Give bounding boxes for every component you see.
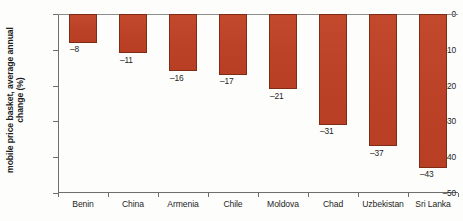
x-axis-category-label: Armenia: [167, 199, 198, 209]
bar-value-label: –31: [320, 126, 333, 136]
zero-baseline: [58, 14, 458, 15]
bar-value-label: –11: [120, 55, 133, 65]
x-axis-category-label: Chile: [223, 199, 242, 209]
bar-chart: mobile price basket, average annual chan…: [0, 0, 463, 221]
bar: [219, 14, 247, 75]
x-axis-tick: [58, 193, 59, 197]
bar: [169, 14, 197, 71]
bar: [369, 14, 397, 146]
x-axis-tick: [408, 193, 409, 197]
bar-value-label: –16: [170, 73, 183, 83]
bar: [69, 14, 97, 43]
x-axis-category-label: Chad: [323, 199, 343, 209]
plot-area: [58, 14, 458, 193]
bar-value-label: –37: [370, 148, 383, 158]
x-axis-category-label: Sri Lanka: [415, 199, 450, 209]
x-axis-tick: [358, 193, 359, 197]
bar: [419, 14, 447, 168]
x-axis-tick: [458, 193, 459, 197]
x-axis-tick: [208, 193, 209, 197]
bar: [269, 14, 297, 89]
x-axis-category-label: Benin: [72, 199, 93, 209]
x-axis-category-label: Uzbekistan: [362, 199, 404, 209]
x-axis-tick: [258, 193, 259, 197]
bar-value-label: –21: [270, 91, 283, 101]
y-axis-title: mobile price basket, average annual chan…: [0, 0, 30, 200]
bar: [119, 14, 147, 53]
x-axis-tick: [158, 193, 159, 197]
x-axis-tick: [108, 193, 109, 197]
x-axis-tick: [308, 193, 309, 197]
bar-value-label: –17: [220, 76, 233, 86]
x-axis-category-label: Moldova: [267, 199, 299, 209]
bar: [319, 14, 347, 125]
bar-value-label: –43: [420, 169, 433, 179]
bar-value-label: –8: [70, 44, 79, 54]
x-axis-category-label: China: [122, 199, 144, 209]
y-axis-title-line-2: change (%): [15, 77, 25, 122]
y-axis-title-line-1: mobile price basket, average annual: [5, 27, 15, 173]
